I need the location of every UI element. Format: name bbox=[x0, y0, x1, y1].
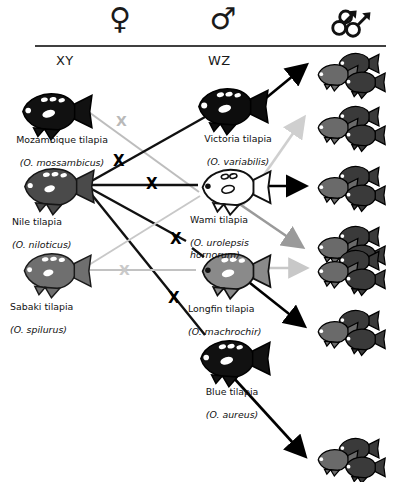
cross-marker-niloticus-urolepsis: X bbox=[146, 177, 158, 192]
species-common-name: Longfin tilapia bbox=[188, 303, 296, 314]
cross-marker-mossambicus-urolepsis: X bbox=[116, 114, 127, 128]
species-common-name: Mozambique tilapia bbox=[10, 134, 114, 145]
species-scientific-name: (O. spilurus) bbox=[10, 324, 110, 335]
species-common-name: Sabaki tilapia bbox=[10, 301, 110, 312]
species-common-name: Wami tilapia bbox=[190, 214, 286, 225]
species-label-spilurus: Sabaki tilapia (O. spilurus) bbox=[10, 290, 110, 347]
species-scientific-name: (O. variabilis) bbox=[186, 156, 290, 167]
cross-marker-niloticus-machrochir: X bbox=[170, 232, 182, 247]
species-label-mossambicus: Mozambique tilapia (O. mossambicus) bbox=[10, 123, 114, 180]
column-header-wz: WZ bbox=[208, 53, 231, 68]
species-label-niloticus: Nile tilapia (O. niloticus) bbox=[12, 205, 108, 262]
species-label-aureus: Blue tilapia (O. aureus) bbox=[180, 375, 284, 432]
column-header-xy: XY bbox=[56, 53, 74, 68]
species-common-name: Victoria tilapia bbox=[186, 133, 290, 144]
species-label-variabilis: Victoria tilapia (O. variabilis) bbox=[186, 122, 290, 179]
species-common-name: Blue tilapia bbox=[180, 386, 284, 397]
species-scientific-name: (O. aureus) bbox=[180, 409, 284, 420]
species-scientific-name: (O. machrochir) bbox=[188, 326, 296, 337]
cross-marker-niloticus-variabilis: X bbox=[113, 154, 125, 169]
species-label-machrochir: Longfin tilapia (O. machrochir) bbox=[188, 292, 296, 349]
species-common-name: Nile tilapia bbox=[12, 216, 108, 227]
diagram-canvas: ♀ ♂ XY WZ bbox=[0, 0, 393, 482]
species-label-urolepsis: Wami tilapia (O. urolepsis hornorum) bbox=[190, 203, 286, 271]
cross-marker-niloticus-aureus: X bbox=[168, 291, 180, 306]
species-scientific-name: (O. urolepsis hornorum) bbox=[190, 237, 286, 260]
cross-marker-spilurus-machrochir: X bbox=[119, 263, 130, 277]
species-scientific-name: (O. mossambicus) bbox=[10, 157, 114, 168]
species-scientific-name: (O. niloticus) bbox=[12, 239, 108, 250]
